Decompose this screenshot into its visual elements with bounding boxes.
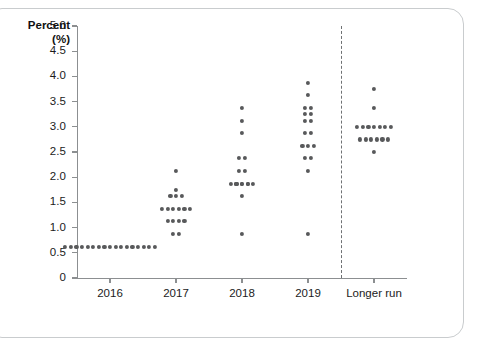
dot-point <box>309 118 313 122</box>
dot-point <box>171 232 175 236</box>
dot-point <box>303 156 307 160</box>
dot-point <box>171 207 175 211</box>
y-tick-label: 3.0 <box>22 120 66 132</box>
dot-point <box>243 169 247 173</box>
dot-point <box>309 106 313 110</box>
dot-point <box>309 156 313 160</box>
dot-point <box>306 144 310 148</box>
dot-point <box>177 232 181 236</box>
x-tick-mark <box>175 278 176 283</box>
dot-point <box>188 207 192 211</box>
dot-point <box>240 194 244 198</box>
x-tick-mark <box>241 278 242 283</box>
dot-point <box>364 137 368 141</box>
x-tick-label-longer-run: Longer run <box>346 287 402 299</box>
dot-point <box>182 207 186 211</box>
dot-point <box>386 137 390 141</box>
x-tick-label-2016: 2016 <box>97 287 123 299</box>
dot-point <box>306 81 310 85</box>
dot-point <box>142 244 146 248</box>
y-tick-label: 2.5 <box>22 145 66 157</box>
dot-point <box>303 131 307 135</box>
dot-point <box>97 244 101 248</box>
dot-point <box>380 137 384 141</box>
dot-point <box>63 244 67 248</box>
dot-point <box>174 188 178 192</box>
dot-point <box>375 137 379 141</box>
dot-point <box>174 194 178 198</box>
dot-point <box>174 169 178 173</box>
dot-point <box>251 181 255 185</box>
dot-point <box>171 219 175 223</box>
dot-point <box>86 244 90 248</box>
dot-point <box>130 244 134 248</box>
dot-point <box>309 112 313 116</box>
dot-point <box>125 244 129 248</box>
dot-point <box>114 244 118 248</box>
dot-point <box>300 144 304 148</box>
dot-point <box>355 125 359 129</box>
dot-point <box>312 144 316 148</box>
dot-point <box>306 93 310 97</box>
y-tick-label: 0.5 <box>22 246 66 258</box>
dot-point <box>168 194 172 198</box>
dot-point <box>303 112 307 116</box>
dot-point <box>237 169 241 173</box>
dot-point <box>306 169 310 173</box>
dot-point <box>177 219 181 223</box>
x-tick-label-2018: 2018 <box>229 287 255 299</box>
x-tick-mark <box>373 278 374 283</box>
y-tick-label: 4.0 <box>22 69 66 81</box>
dot-point <box>372 150 376 154</box>
dot-point <box>160 207 164 211</box>
y-tick-label: 3.5 <box>22 95 66 107</box>
dot-point <box>234 181 238 185</box>
dot-point <box>366 125 370 129</box>
dot-point <box>240 106 244 110</box>
x-tick-mark <box>307 278 308 283</box>
x-tick-label-2019: 2019 <box>295 287 321 299</box>
dot-point <box>372 106 376 110</box>
dot-point <box>372 125 376 129</box>
dot-point <box>389 125 393 129</box>
dot-point <box>237 156 241 160</box>
dot-point <box>246 181 250 185</box>
dot-point <box>69 244 73 248</box>
dot-point <box>177 207 181 211</box>
y-tick-label: 2.0 <box>22 170 66 182</box>
dot-point <box>119 244 123 248</box>
dot-point <box>74 244 78 248</box>
x-tick-mark <box>109 278 110 283</box>
dot-point <box>102 244 106 248</box>
dot-point <box>108 244 112 248</box>
dot-point <box>229 181 233 185</box>
dot-point <box>166 207 170 211</box>
dot-point <box>306 232 310 236</box>
dot-point <box>361 125 365 129</box>
dot-point <box>309 131 313 135</box>
dot-point <box>180 194 184 198</box>
dot-point <box>303 106 307 110</box>
dot-point <box>240 118 244 122</box>
dot-point <box>240 131 244 135</box>
dot-point <box>91 244 95 248</box>
x-tick-label-2017: 2017 <box>163 287 189 299</box>
dot-point <box>358 137 362 141</box>
dot-point <box>166 219 170 223</box>
dot-point <box>243 156 247 160</box>
dot-point <box>240 181 244 185</box>
dot-point <box>240 232 244 236</box>
dot-point <box>383 125 387 129</box>
dot-point <box>372 87 376 91</box>
y-tick-label: 1.5 <box>22 195 66 207</box>
y-tick-label: 0 <box>22 271 66 283</box>
dot-point <box>378 125 382 129</box>
dot-point <box>147 244 151 248</box>
dot-point <box>182 219 186 223</box>
dot-point <box>369 137 373 141</box>
y-tick-label: 5.0 <box>22 19 66 31</box>
dot-point <box>136 244 140 248</box>
dot-point <box>303 118 307 122</box>
y-tick-label: 4.5 <box>22 44 66 56</box>
